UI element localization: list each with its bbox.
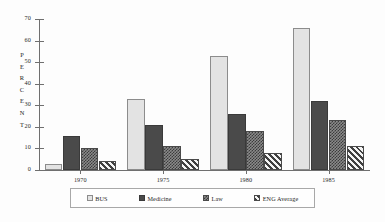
bar-bus-1975 bbox=[127, 99, 145, 170]
legend-item-medicine[interactable]: Medicine bbox=[139, 195, 172, 202]
legend-swatch-icon bbox=[87, 195, 93, 201]
bar-eng-average-1980 bbox=[264, 153, 282, 170]
y-axis-title-letter: N bbox=[17, 107, 27, 119]
legend-swatch-icon bbox=[254, 195, 260, 201]
plot-area: 010203040506070 1970197519801985 bbox=[39, 19, 370, 170]
legend-swatch-icon bbox=[203, 195, 209, 201]
x-axis-tick bbox=[163, 170, 164, 174]
x-axis-label-1985: 1985 bbox=[313, 176, 345, 183]
bar-law-1980 bbox=[246, 131, 264, 170]
x-axis-tick bbox=[246, 170, 247, 174]
y-axis-tick: 30 bbox=[35, 105, 44, 106]
y-axis-tick-label: 0 bbox=[28, 165, 31, 172]
legend-item-bus[interactable]: BUS bbox=[87, 195, 108, 202]
legend-label: Medicine bbox=[147, 195, 171, 202]
bar-bus-1970 bbox=[45, 164, 63, 170]
bar-group bbox=[45, 19, 117, 170]
legend-label: Law bbox=[212, 195, 223, 202]
bar-group bbox=[210, 19, 282, 170]
y-axis-tick: 60 bbox=[35, 41, 44, 42]
bar-medicine-1975 bbox=[145, 125, 163, 170]
x-axis-tick bbox=[329, 170, 330, 174]
y-axis-tick: 70 bbox=[35, 19, 44, 20]
y-axis-tick-label: 30 bbox=[25, 100, 31, 107]
bar-medicine-1980 bbox=[228, 114, 246, 170]
y-axis-line bbox=[39, 19, 40, 170]
bar-medicine-1985 bbox=[311, 101, 329, 170]
bar-eng-average-1985 bbox=[347, 146, 365, 170]
y-axis-tick-label: 40 bbox=[25, 79, 31, 86]
y-axis-tick-label: 10 bbox=[25, 143, 31, 150]
bar-chart: PERCENT 010203040506070 1970197519801985… bbox=[0, 0, 385, 222]
bar-law-1970 bbox=[81, 148, 99, 170]
bar-eng-average-1975 bbox=[181, 159, 199, 170]
bar-group bbox=[293, 19, 365, 170]
legend-label: BUS bbox=[95, 195, 107, 202]
x-axis-label-1970: 1970 bbox=[64, 176, 96, 183]
legend-item-eng-average[interactable]: ENG Average bbox=[254, 195, 298, 202]
y-axis-tick: 50 bbox=[35, 62, 44, 63]
y-axis-tick: 10 bbox=[35, 148, 44, 149]
bar-medicine-1970 bbox=[63, 136, 81, 171]
bar-bus-1980 bbox=[210, 56, 228, 170]
y-axis-tick: 40 bbox=[35, 84, 44, 85]
x-axis-label-1975: 1975 bbox=[147, 176, 179, 183]
bar-group bbox=[127, 19, 199, 170]
y-axis-tick-label: 60 bbox=[25, 36, 31, 43]
x-axis-line bbox=[39, 170, 370, 171]
y-axis-tick-label: 70 bbox=[25, 14, 31, 21]
x-axis-label-1980: 1980 bbox=[230, 176, 262, 183]
bar-law-1985 bbox=[329, 120, 347, 170]
y-axis-tick: 20 bbox=[35, 127, 44, 128]
y-axis-tick: 0 bbox=[35, 170, 44, 171]
bar-law-1975 bbox=[163, 146, 181, 170]
x-axis-tick bbox=[80, 170, 81, 174]
legend-swatch-icon bbox=[139, 195, 145, 201]
legend-label: ENG Average bbox=[263, 195, 299, 202]
y-axis-tick-label: 50 bbox=[25, 57, 31, 64]
y-axis-tick-label: 20 bbox=[25, 122, 31, 129]
chart-legend: BUSMedicineLawENG Average bbox=[70, 188, 315, 208]
legend-item-law[interactable]: Law bbox=[203, 195, 223, 202]
bar-bus-1985 bbox=[293, 28, 311, 170]
bar-eng-average-1970 bbox=[99, 161, 117, 170]
